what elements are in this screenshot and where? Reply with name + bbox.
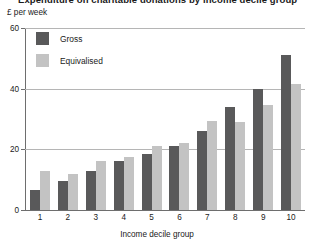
bar-equivalised-4 [124,157,134,210]
legend-item-gross: Gross [36,32,103,45]
y-tick-0 [21,210,25,211]
chart-legend: Gross Equivalised [36,32,103,76]
x-tick-label-9: 9 [249,213,277,222]
legend-swatch-gross-icon [36,32,49,45]
bar-group-5 [138,28,166,210]
bar-gross-6 [169,146,179,210]
y-tick-label-60: 60 [10,24,19,33]
bar-gross-2 [58,181,68,210]
legend-item-equivalised: Equivalised [36,54,103,67]
clipped-chart-title: Expenditure on charitable donations by i… [18,0,297,5]
bar-group-7 [193,28,221,210]
bar-group-8 [221,28,249,210]
x-tick-label-7: 7 [193,213,221,222]
legend-label-equivalised: Equivalised [60,56,103,66]
bar-equivalised-1 [40,171,50,210]
x-tick-label-2: 2 [54,213,82,222]
bar-group-10 [277,28,305,210]
y-tick-60 [21,28,25,29]
bar-equivalised-5 [152,146,162,210]
bar-equivalised-6 [179,143,189,210]
bar-gross-8 [225,107,235,210]
x-axis-title: Income decile group [0,230,314,239]
x-tick-label-8: 8 [221,213,249,222]
bar-equivalised-3 [96,161,106,210]
y-tick-label-0: 0 [14,206,19,215]
y-axis-unit-label: £ per week [7,8,47,17]
bar-equivalised-2 [68,174,78,210]
bar-gross-9 [253,89,263,210]
x-axis-tick-labels: 12345678910 [26,213,305,222]
bar-gross-7 [197,131,207,210]
x-axis-line [25,210,305,211]
y-tick-20 [21,149,25,150]
bar-gross-3 [86,171,96,210]
bar-equivalised-7 [207,121,217,210]
x-tick-label-6: 6 [166,213,194,222]
y-tick-label-40: 40 [10,84,19,93]
x-tick-label-4: 4 [110,213,138,222]
bar-group-9 [249,28,277,210]
y-tick-label-20: 20 [10,145,19,154]
x-tick-label-3: 3 [82,213,110,222]
bar-equivalised-8 [235,122,245,210]
bar-gross-10 [281,55,291,210]
x-tick-label-1: 1 [26,213,54,222]
bar-equivalised-10 [291,84,301,210]
y-tick-40 [21,89,25,90]
x-tick-label-10: 10 [277,213,305,222]
x-tick-label-5: 5 [138,213,166,222]
bar-gross-4 [114,161,124,210]
bar-gross-1 [30,190,40,210]
bar-group-4 [110,28,138,210]
bar-group-6 [166,28,194,210]
legend-label-gross: Gross [60,34,82,44]
bar-gross-5 [142,154,152,210]
legend-swatch-equivalised-icon [36,54,49,67]
bar-equivalised-9 [263,105,273,210]
chart-page: Expenditure on charitable donations by i… [0,0,314,248]
